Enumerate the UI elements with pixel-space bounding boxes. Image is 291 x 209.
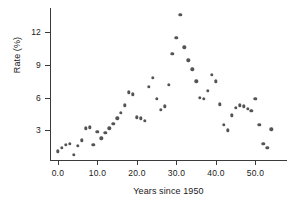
x-axis-tick-label: 50.0 (247, 168, 264, 178)
x-axis-tick (176, 160, 177, 165)
x-axis-tick (97, 160, 98, 165)
x-axis-tick-label: 30.0 (168, 168, 185, 178)
y-axis-line (50, 8, 51, 160)
x-axis-tick-label: 40.0 (207, 168, 224, 178)
x-axis-title: Years since 1950 (50, 186, 287, 196)
x-axis-tick-label: 20.0 (128, 168, 145, 178)
y-axis-tick (45, 98, 51, 99)
y-axis-tick (45, 65, 51, 66)
x-axis-tick (137, 160, 138, 165)
y-axis-tick-label: 3 (0, 125, 41, 135)
x-axis-tick (216, 160, 217, 165)
scatter-chart-figure: 0.010.020.030.040.050.036912 Years since… (0, 0, 291, 209)
x-axis-tick (255, 160, 256, 165)
x-axis-tick-label: 0.0 (52, 168, 64, 178)
x-axis-tick-label: 10.0 (89, 168, 106, 178)
y-axis-tick (45, 32, 51, 33)
y-axis-tick (45, 130, 51, 131)
y-axis-title: Rate (%) (12, 0, 22, 110)
x-axis-line (50, 160, 287, 161)
x-axis-tick (58, 160, 59, 165)
